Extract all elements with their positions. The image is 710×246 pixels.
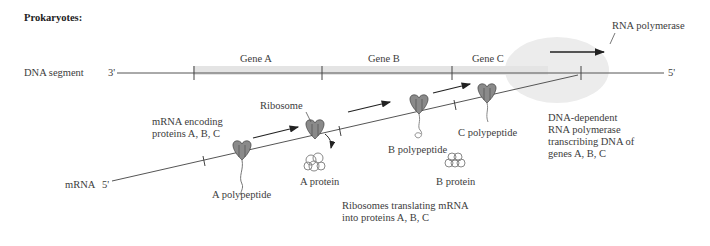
page-title: Prokaryotes: — [24, 12, 82, 24]
translation-arrow-2 — [348, 102, 390, 112]
dna-5prime-label: 5' — [668, 67, 675, 79]
ribosome-icon — [410, 95, 428, 114]
release-arrow — [325, 134, 331, 148]
protein-a-coil-icon — [304, 153, 325, 171]
b-polypeptide-label: B polypeptide — [388, 144, 447, 156]
ribosome-label: Ribosome — [260, 100, 303, 112]
translation-arrow-3 — [433, 84, 470, 93]
mrna-encoding-label: mRNA encoding proteins A, B, C — [152, 116, 223, 140]
gene-a-label: Gene A — [240, 53, 272, 65]
a-polypeptide-label: A polypeptide — [212, 189, 271, 201]
polypeptide-chain-c — [487, 103, 488, 122]
mrna-label: mRNA — [65, 179, 95, 191]
b-protein-label: B protein — [436, 176, 475, 188]
ribosome-icon — [478, 84, 496, 103]
gene-band — [193, 66, 548, 75]
mrna-5prime-label: 5' — [102, 179, 109, 191]
ribosome-icon — [233, 141, 251, 160]
gene-c-label: Gene C — [472, 53, 504, 65]
a-protein-label: A protein — [300, 176, 339, 188]
dna-3prime-label: 3' — [108, 67, 115, 79]
rna-polymerase-label: RNA polymerase — [612, 20, 685, 32]
polymerase-leader-line — [610, 33, 615, 44]
gene-b-label: Gene B — [368, 53, 400, 65]
polymerase-description: DNA-dependent RNA polymerase transcribin… — [548, 112, 634, 160]
c-polypeptide-label: C polypeptide — [458, 127, 517, 139]
translation-arrow-1 — [253, 127, 298, 138]
protein-b-coil-icon — [445, 153, 465, 167]
translation-caption: Ribosomes translating mRNA into proteins… — [342, 200, 469, 224]
polypeptide-chain-b — [415, 114, 422, 138]
dna-segment-label: DNA segment — [24, 67, 84, 79]
